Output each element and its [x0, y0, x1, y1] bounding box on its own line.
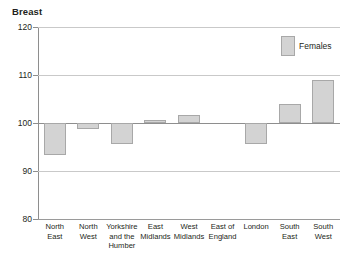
bar-east-midlands	[144, 120, 166, 123]
gridline-90	[38, 171, 340, 172]
bar-north-west	[77, 123, 99, 129]
x-label-line: and the	[109, 232, 134, 241]
x-axis-label-east-midlands: EastMidlands	[139, 222, 173, 241]
x-label-line: East	[282, 232, 297, 241]
x-label-line: West	[180, 222, 197, 231]
x-label-line: Midlands	[174, 232, 204, 241]
gridline-110	[38, 75, 340, 76]
gridline-80	[38, 219, 340, 220]
x-label-line: South	[280, 222, 300, 231]
y-tick-label-110: 110	[0, 70, 32, 80]
x-label-line: London	[243, 222, 268, 231]
x-axis-label-north-east: NorthEast	[38, 222, 72, 241]
x-label-line: Yorkshire	[106, 222, 137, 231]
x-label-line: West	[80, 232, 97, 241]
x-label-line: South	[313, 222, 333, 231]
bar-london	[245, 123, 267, 144]
legend-label-females: Females	[299, 41, 332, 51]
x-axis-label-west-midlands: WestMidlands	[172, 222, 206, 241]
bar-yorkshire-and-the-humber	[111, 123, 133, 144]
legend-swatch-females	[281, 36, 295, 56]
y-tick-label-80: 80	[0, 214, 32, 224]
x-label-line: Humber	[108, 241, 135, 250]
breast-incidence-bar-chart: Breast 8090100110120 NorthEastNorthWestY…	[0, 0, 350, 267]
x-label-line: East of	[211, 222, 235, 231]
y-tick-label-100: 100	[0, 118, 32, 128]
x-label-line: East	[148, 222, 163, 231]
x-axis-label-group: NorthEastNorthWestYorkshireand theHumber…	[38, 222, 340, 266]
bar-south-east	[279, 104, 301, 123]
gridline-120	[38, 27, 340, 28]
y-tick-label-90: 90	[0, 166, 32, 176]
x-axis-label-east-of-england: East ofEngland	[206, 222, 240, 241]
x-label-line: East	[47, 232, 62, 241]
bar-west-midlands	[178, 115, 200, 123]
x-axis-label-south-west: SouthWest	[306, 222, 340, 241]
x-label-line: England	[209, 232, 237, 241]
x-label-line: North	[45, 222, 64, 231]
x-axis-label-london: London	[239, 222, 273, 232]
y-tick-label-120: 120	[0, 22, 32, 32]
x-axis-label-north-west: NorthWest	[72, 222, 106, 241]
bar-south-west	[312, 80, 334, 123]
legend: Females	[281, 36, 332, 56]
x-axis-label-south-east: SouthEast	[273, 222, 307, 241]
bar-north-east	[44, 123, 66, 155]
x-label-line: Midlands	[140, 232, 170, 241]
x-label-line: West	[315, 232, 332, 241]
x-axis-label-yorkshire-and-the-humber: Yorkshireand theHumber	[105, 222, 139, 251]
chart-title: Breast	[12, 6, 42, 17]
x-label-line: North	[79, 222, 98, 231]
